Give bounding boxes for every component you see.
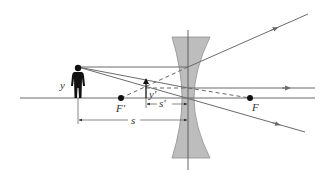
image-arrow-head [143, 78, 149, 84]
front-focal-point [118, 95, 124, 101]
object-person [71, 65, 85, 98]
ray-focal-incident [78, 67, 188, 88]
object-height-label: y [59, 79, 65, 91]
ray-diagram: y y' F' F s' s [0, 0, 332, 179]
object-distance-label: s [131, 114, 135, 126]
image-height-label: y' [148, 88, 157, 100]
back-focal-label: F [251, 101, 259, 113]
ray-parallel-arrow [270, 28, 276, 31]
front-focal-label: F' [115, 102, 126, 114]
ray-focal-virtual-extension [188, 88, 250, 98]
ray-central-arrow [272, 123, 278, 125]
image-distance-label: s' [159, 97, 166, 109]
